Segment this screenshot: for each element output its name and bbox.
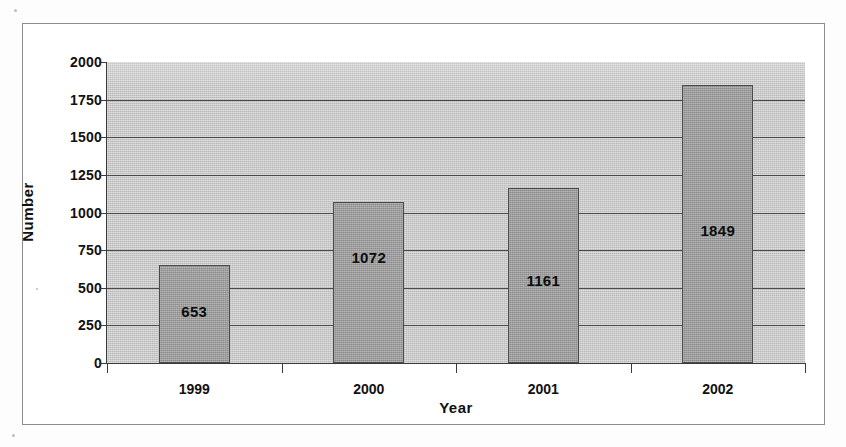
y-axis-title: Number bbox=[19, 182, 36, 242]
x-axis-tick bbox=[631, 364, 632, 373]
y-axis-tick-label: 1750 bbox=[16, 92, 102, 108]
bar-2000 bbox=[333, 202, 404, 363]
y-axis-tick bbox=[99, 175, 107, 176]
scan-speck bbox=[36, 288, 38, 290]
scanned-page: 200017501500125010007505002500 653107211… bbox=[0, 0, 846, 447]
x-axis-tick-label-1999: 1999 bbox=[134, 381, 254, 397]
y-axis-tick bbox=[99, 325, 107, 326]
y-axis-tick-label: 750 bbox=[16, 242, 102, 258]
y-axis-tick-label: 250 bbox=[16, 317, 102, 333]
x-axis-tick-label-2000: 2000 bbox=[309, 381, 429, 397]
x-axis-tick bbox=[456, 364, 457, 373]
scan-speck bbox=[14, 9, 17, 12]
x-axis-tick bbox=[282, 364, 283, 373]
y-axis-tick bbox=[99, 363, 107, 364]
y-axis-tick bbox=[99, 100, 107, 101]
y-axis-tick-label: 0 bbox=[16, 355, 102, 371]
x-axis-tick-label-2002: 2002 bbox=[658, 381, 778, 397]
bar-value-label-2002: 1849 bbox=[663, 222, 773, 239]
x-axis-tick bbox=[805, 364, 806, 373]
y-axis-tick bbox=[99, 288, 107, 289]
x-axis-tick-label-2001: 2001 bbox=[483, 381, 603, 397]
bar-value-label-1999: 653 bbox=[139, 303, 249, 320]
y-axis-tick-label: 2000 bbox=[16, 54, 102, 70]
y-axis-tick bbox=[99, 62, 107, 63]
y-axis-tick-label: 1500 bbox=[16, 129, 102, 145]
bar-value-label-2000: 1072 bbox=[314, 249, 424, 266]
y-axis-tick bbox=[99, 213, 107, 214]
y-axis-tick bbox=[99, 250, 107, 251]
y-axis-tick-label: 500 bbox=[16, 280, 102, 296]
x-axis-tick bbox=[107, 364, 108, 373]
x-axis-title: Year bbox=[439, 399, 473, 416]
bar-chart: 200017501500125010007505002500 653107211… bbox=[0, 0, 846, 447]
y-axis-tick bbox=[99, 137, 107, 138]
bar-value-label-2001: 1161 bbox=[488, 272, 598, 289]
y-axis-tick-label: 1250 bbox=[16, 167, 102, 183]
scan-speck bbox=[12, 434, 15, 437]
